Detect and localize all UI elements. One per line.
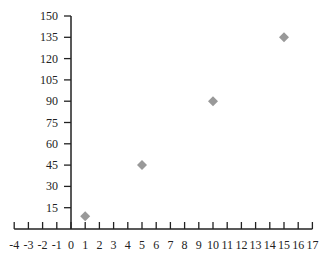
data-point-diamond [137, 160, 147, 170]
x-tick-label: 8 [182, 238, 188, 252]
x-tick-label: 17 [306, 238, 318, 252]
x-tick-label: 13 [250, 238, 262, 252]
data-point-diamond [80, 211, 90, 221]
y-tick-label: 45 [46, 158, 58, 172]
data-point-diamond [279, 32, 289, 42]
x-tick-label: 15 [278, 238, 290, 252]
axes: -4-3-2-101234567891011121314151617153045… [9, 9, 318, 252]
x-tick-label: 16 [292, 238, 304, 252]
y-tick-label: 90 [46, 94, 58, 108]
data-points [80, 32, 289, 221]
y-tick-label: 75 [46, 116, 58, 130]
x-tick-label: -4 [9, 238, 19, 252]
x-tick-label: 10 [207, 238, 219, 252]
x-tick-label: -3 [23, 238, 33, 252]
y-tick-label: 150 [40, 9, 58, 23]
y-tick-label: 105 [40, 73, 58, 87]
x-tick-label: 12 [235, 238, 247, 252]
x-tick-label: 9 [196, 238, 202, 252]
x-tick-label: 0 [68, 238, 74, 252]
y-tick-label: 15 [46, 201, 58, 215]
scatter-chart: -4-3-2-101234567891011121314151617153045… [0, 0, 331, 265]
x-tick-label: 4 [125, 238, 131, 252]
y-tick-label: 120 [40, 52, 58, 66]
x-tick-label: 14 [264, 238, 276, 252]
x-tick-label: 1 [82, 238, 88, 252]
x-tick-label: 5 [139, 238, 145, 252]
x-tick-label: 3 [111, 238, 117, 252]
x-tick-label: -1 [52, 238, 62, 252]
data-point-diamond [208, 96, 218, 106]
x-tick-label: -2 [38, 238, 48, 252]
x-tick-label: 6 [153, 238, 159, 252]
y-tick-label: 30 [46, 179, 58, 193]
x-tick-label: 7 [167, 238, 173, 252]
x-tick-label: 2 [96, 238, 102, 252]
y-tick-label: 60 [46, 137, 58, 151]
y-tick-label: 135 [40, 30, 58, 44]
x-tick-label: 11 [221, 238, 233, 252]
